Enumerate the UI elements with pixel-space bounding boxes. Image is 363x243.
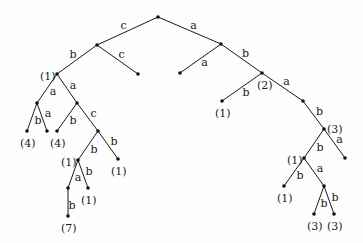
edge-label: a — [190, 19, 197, 32]
edge-label: b — [68, 199, 75, 212]
edge-label: b — [85, 165, 92, 178]
tree-node — [66, 214, 70, 218]
edge-label: b — [90, 143, 97, 156]
node-multiplicity-label: (3) — [307, 220, 323, 233]
tree-node — [35, 101, 39, 105]
tree-node — [322, 127, 326, 131]
node-multiplicity-label: (4) — [50, 137, 66, 150]
node-multiplicity-label: (7) — [61, 222, 77, 235]
edge-label: c — [118, 48, 124, 61]
node-multiplicity-label: (3) — [327, 220, 343, 233]
edge-label: b — [242, 86, 249, 99]
edge-label: a — [50, 85, 57, 98]
tree-node — [282, 184, 286, 188]
tree-node — [75, 101, 79, 105]
edge-label: a — [75, 171, 82, 184]
node-multiplicity-label: (1) — [287, 154, 303, 167]
edge-label: c — [90, 107, 96, 120]
edge-label: b — [316, 105, 323, 118]
node-multiplicity-label: (3) — [327, 123, 343, 136]
tree-diagram: cabcabaababcbbabbbabbababb (1)(2)(4)(4)(… — [0, 0, 363, 243]
tree-node — [116, 157, 120, 161]
node-multiplicity-label: (1) — [81, 194, 97, 207]
edge-label: b — [331, 191, 338, 204]
tree-node — [96, 129, 100, 133]
edge-label: b — [316, 141, 323, 154]
edge-label: a — [70, 79, 77, 92]
tree-node — [301, 99, 305, 103]
node-multiplicity-label: (1) — [61, 156, 77, 169]
tree-node — [312, 212, 316, 216]
tree-node — [302, 156, 306, 160]
edge-labels-layer: cabcabaababcbbabbbabbababb — [34, 19, 343, 213]
edge-label: b — [34, 114, 41, 127]
tree-node — [95, 43, 99, 47]
edge-label: a — [45, 107, 52, 120]
tree-node — [55, 129, 59, 133]
tree-svg: cabcabaababcbbabbbabbababb (1)(2)(4)(4)(… — [0, 0, 363, 243]
tree-node — [25, 129, 29, 133]
tree-node — [136, 72, 140, 76]
tree-node — [322, 184, 326, 188]
tree-node — [55, 72, 59, 76]
tree-node — [332, 212, 336, 216]
node-multiplicity-label: (1) — [277, 192, 293, 205]
node-multiplicity-label: (1) — [111, 165, 127, 178]
node-multiplicity-label: (1) — [215, 107, 231, 120]
edge-label: b — [69, 48, 76, 61]
tree-edge — [97, 17, 158, 45]
tree-node — [220, 99, 224, 103]
tree-edge — [57, 45, 97, 74]
node-multiplicity-label: (4) — [20, 137, 36, 150]
edge-label: b — [296, 169, 303, 182]
edge-label: b — [110, 135, 117, 148]
tree-node — [86, 186, 90, 190]
edge-label: b — [242, 47, 249, 60]
tree-node — [219, 42, 223, 46]
edge-label: a — [283, 75, 290, 88]
tree-node — [178, 71, 182, 75]
edge-label: c — [120, 19, 126, 32]
tree-node — [66, 186, 70, 190]
edge-label: b — [69, 114, 76, 127]
tree-node — [156, 15, 160, 19]
node-multiplicity-label: (1) — [40, 70, 56, 83]
edge-label: a — [317, 162, 324, 175]
tree-node — [45, 129, 49, 133]
tree-node — [76, 158, 80, 162]
edge-label: a — [201, 56, 208, 69]
tree-node — [260, 71, 264, 75]
tree-node — [343, 156, 347, 160]
node-multiplicity-label: (2) — [257, 79, 273, 92]
edge-label: b — [320, 197, 327, 210]
